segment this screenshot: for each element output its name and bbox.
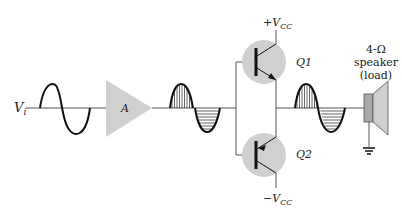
load-label-line1: 4-Ω (366, 43, 386, 56)
q2-supply-label: −VCC (263, 192, 292, 207)
transistor-q1 (242, 30, 286, 108)
load-label-line3: (load) (360, 69, 392, 82)
q1-supply-label: +VCC (263, 16, 292, 31)
amplified-sine-wave (170, 80, 220, 132)
speaker-icon (364, 81, 388, 147)
q1-label: Q1 (296, 56, 312, 69)
amplifier-triangle (106, 80, 152, 137)
transistor-q2 (242, 108, 286, 188)
input-label: Vi (14, 100, 26, 117)
push-pull-amplifier-diagram: Vi A (0, 0, 402, 218)
output-sine-wave (295, 80, 345, 132)
amplifier-label: A (120, 102, 129, 115)
input-sine-wave (40, 84, 90, 134)
ground-icon (363, 148, 375, 154)
q2-label: Q2 (296, 148, 312, 161)
load-label-line2: speaker (354, 56, 399, 69)
